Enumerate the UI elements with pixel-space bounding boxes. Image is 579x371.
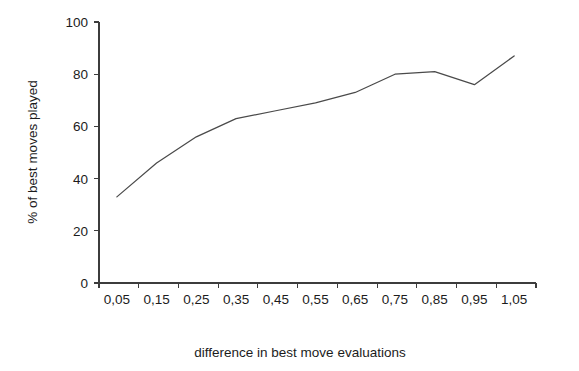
- x-axis-tick-label: 0,25: [183, 292, 209, 307]
- x-axis-title: difference in best move evaluations: [194, 345, 406, 360]
- y-axis-tick-label: 60: [73, 119, 88, 134]
- x-axis-tick-label: 0,15: [143, 292, 169, 307]
- x-axis-tick-label: 0,65: [342, 292, 368, 307]
- x-axis-tick-label: 0,35: [223, 292, 249, 307]
- y-axis-tick-label: 0: [80, 276, 88, 291]
- x-axis-tick-label: 0,05: [104, 292, 130, 307]
- x-axis-tick-label: 1,05: [501, 292, 527, 307]
- x-axis-tick-label: 0,95: [461, 292, 487, 307]
- y-axis-tick-label: 20: [73, 224, 88, 239]
- x-axis-tick-label: 0,55: [302, 292, 328, 307]
- y-axis-tick-label: 100: [65, 15, 88, 30]
- y-axis-title: % of best moves played: [25, 80, 40, 223]
- line-chart: 020406080100 0,050,150,250,350,450,550,6…: [0, 0, 579, 371]
- y-axis-tick-label: 80: [73, 67, 88, 82]
- x-axis-tick-label: 0,85: [422, 292, 448, 307]
- chart-container: 020406080100 0,050,150,250,350,450,550,6…: [0, 0, 579, 371]
- y-axis-tick-label: 40: [73, 172, 88, 187]
- x-axis-tick-label: 0,75: [382, 292, 408, 307]
- x-axis-tick-label: 0,45: [263, 292, 289, 307]
